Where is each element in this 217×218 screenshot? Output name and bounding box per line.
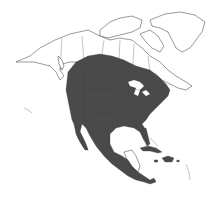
lesser-antilles [186, 164, 190, 180]
pacific-islands [24, 108, 32, 113]
range-puerto-rico [177, 160, 180, 162]
range-cuba [140, 146, 162, 153]
range-florida [140, 128, 150, 146]
arctic-islands-outline [100, 16, 142, 38]
range-hispaniola [162, 156, 174, 162]
baffin-island-outline [140, 30, 164, 52]
range-jamaica [154, 160, 158, 162]
bahamas [150, 138, 158, 146]
range-mainland [66, 54, 170, 184]
range-map [0, 0, 217, 218]
